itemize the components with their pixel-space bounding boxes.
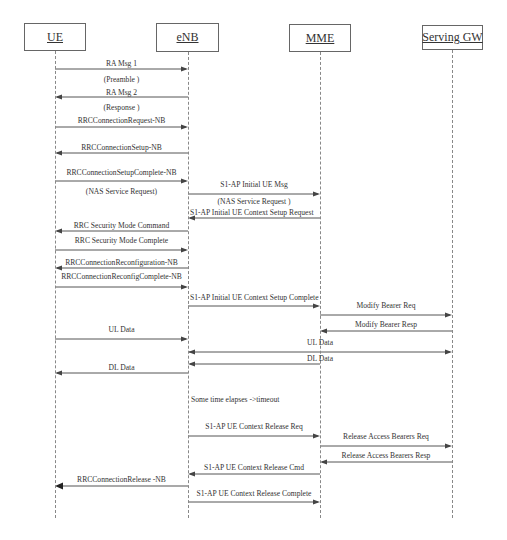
arrowhead-icon bbox=[313, 434, 320, 439]
arrowhead-icon bbox=[445, 350, 452, 355]
message-label: RA Msg 2 bbox=[106, 89, 137, 97]
actor-label: Serving GW bbox=[422, 30, 482, 45]
arrowhead-icon bbox=[313, 192, 320, 197]
message-label: UL Data bbox=[307, 339, 333, 347]
arrowhead-icon bbox=[188, 472, 195, 477]
arrowhead-icon bbox=[445, 313, 452, 318]
message-label: S1-AP UE Context Release Cmd bbox=[204, 464, 304, 472]
arrowhead-icon bbox=[55, 229, 62, 234]
arrowhead-icon bbox=[181, 285, 188, 290]
message-label: Release Access Bearers Resp bbox=[342, 452, 431, 460]
arrowhead-icon bbox=[181, 67, 188, 72]
message-label: Modify Bearer Req bbox=[356, 302, 415, 310]
arrowhead-icon bbox=[181, 179, 188, 184]
actor-label: UE bbox=[47, 30, 63, 45]
actor-box-enb: eNB bbox=[156, 23, 219, 52]
arrowhead-icon bbox=[55, 95, 62, 100]
actor-box-ue: UE bbox=[24, 23, 86, 51]
arrowhead-icon bbox=[55, 483, 63, 490]
message-label: RRCConnectionReconfiguration-NB bbox=[65, 259, 178, 267]
message-label: RRCConnectionRequest-NB bbox=[78, 117, 166, 125]
message-label: (NAS Service Request) bbox=[86, 188, 157, 196]
lifeline-mme bbox=[320, 52, 321, 518]
message-label: RRC Security Mode Command bbox=[74, 222, 170, 230]
arrowhead-icon bbox=[181, 248, 188, 253]
lifeline-sgw bbox=[452, 50, 453, 518]
arrowhead-icon bbox=[445, 444, 452, 449]
message-label: (NAS Service Request ) bbox=[217, 198, 290, 206]
arrowhead-icon bbox=[320, 329, 327, 334]
arrowhead-icon bbox=[313, 304, 320, 309]
arrowhead-icon bbox=[55, 151, 62, 156]
message-label: UL Data bbox=[108, 326, 134, 334]
arrowhead-icon bbox=[188, 362, 195, 367]
actor-label: MME bbox=[306, 31, 335, 46]
message-label: (Response ) bbox=[103, 104, 139, 112]
message-label: RRC Security Mode Complete bbox=[75, 237, 168, 245]
message-label: S1-AP UE Context Release Complete bbox=[197, 490, 312, 498]
message-label: RRCConnectionRelease -NB bbox=[77, 476, 166, 484]
message-label: RRCConnectionReconfigComplete-NB bbox=[61, 273, 182, 281]
message-label: S1-AP UE Context Release Req bbox=[205, 423, 303, 431]
arrowhead-icon bbox=[320, 460, 327, 465]
arrowhead-icon bbox=[181, 337, 188, 342]
message-arrows bbox=[0, 0, 507, 540]
lifeline-enb bbox=[188, 52, 189, 518]
arrowhead-icon bbox=[313, 500, 320, 505]
arrowhead-icon bbox=[55, 371, 62, 376]
message-label: RA Msg 1 bbox=[106, 60, 137, 68]
arrowhead-icon bbox=[188, 350, 195, 355]
timeout-note: Some time elapses ->timeout bbox=[191, 396, 279, 404]
message-label: RRCConnectionSetupComplete-NB bbox=[66, 169, 176, 177]
message-label: DL Data bbox=[108, 364, 134, 372]
arrowhead-icon bbox=[55, 266, 62, 271]
arrowhead-icon bbox=[181, 125, 188, 130]
lifeline-ue bbox=[55, 51, 56, 518]
actor-box-sgw: Serving GW bbox=[422, 25, 483, 50]
message-label: S1-AP Initial UE Msg bbox=[220, 181, 287, 189]
actor-label: eNB bbox=[177, 30, 199, 45]
message-label: RRCConnectionSetup-NB bbox=[81, 144, 162, 152]
sequence-diagram: UEeNBMMEServing GWRA Msg 1(Preamble )RA … bbox=[0, 0, 507, 540]
message-label: S1-AP Initial UE Context Setup Request bbox=[190, 209, 314, 217]
message-label: Release Access Bearers Req bbox=[343, 433, 429, 441]
message-label: Modify Bearer Resp bbox=[355, 321, 417, 329]
message-label: DL Data bbox=[307, 355, 333, 363]
actor-box-mme: MME bbox=[289, 24, 351, 52]
message-label: (Preamble ) bbox=[104, 76, 140, 84]
message-label: S1-AP Initial UE Context Setup Complete bbox=[190, 294, 319, 302]
